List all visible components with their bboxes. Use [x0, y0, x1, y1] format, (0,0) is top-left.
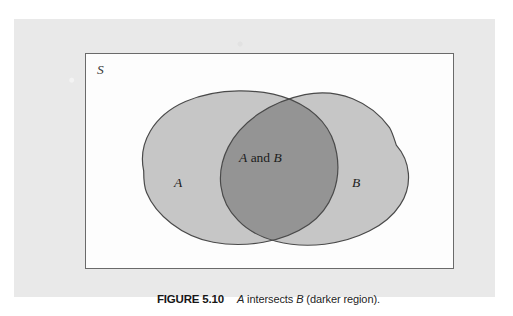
intersection-label: A and B — [239, 151, 282, 165]
figure-caption: FIGURE 5.10A intersects B (darker region… — [28, 290, 509, 306]
figure-caption-number: FIGURE 5.10 — [157, 293, 224, 305]
figure-panel: S A A and B B FIGURE 5.10A intersects B … — [14, 19, 495, 297]
intersection-label-and: and — [247, 150, 273, 165]
intersection-label-a: A — [239, 150, 247, 165]
intersection-label-b: B — [274, 150, 282, 165]
caption-middle: intersects — [244, 293, 296, 305]
set-b-label: B — [352, 176, 360, 190]
sample-space-box: S A A and B B — [85, 53, 454, 269]
figure-caption-text: A intersects B (darker region). — [237, 293, 380, 305]
set-a-label: A — [174, 176, 182, 190]
sample-space-label: S — [97, 63, 104, 77]
caption-tail: (darker region). — [303, 293, 380, 305]
